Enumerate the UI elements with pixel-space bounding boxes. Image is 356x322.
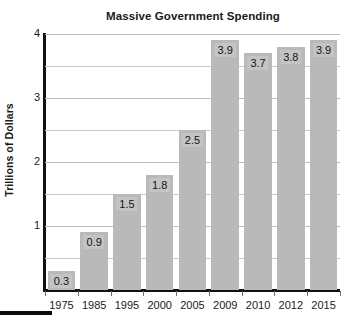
bar[interactable]: 3.9: [310, 40, 338, 290]
bar-value-label: 0.9: [84, 235, 105, 249]
bar-slot: 3.7: [244, 34, 272, 290]
x-axis-tick: [307, 291, 308, 296]
bar-slot: 3.8: [277, 34, 305, 290]
y-axis-tick-label: 1: [20, 219, 40, 231]
x-axis-tick-label: 2005: [176, 299, 209, 311]
x-axis-tick: [78, 291, 79, 296]
x-axis-tick: [340, 291, 341, 296]
bar-value-label: 3.7: [247, 56, 268, 70]
plot-area: 0.30.91.51.82.53.93.73.83.9: [45, 34, 340, 290]
bar[interactable]: 2.5: [179, 130, 207, 290]
bar[interactable]: 1.5: [113, 194, 141, 290]
y-axis-tick-label: 4: [20, 27, 40, 39]
x-axis-tick-label: 2015: [307, 299, 340, 311]
chart-title: Massive Government Spending: [45, 10, 341, 22]
bar[interactable]: 3.7: [244, 53, 272, 290]
x-axis-tick: [176, 291, 177, 296]
bar[interactable]: 3.8: [277, 47, 305, 290]
bar-value-label: 2.5: [182, 133, 203, 147]
x-axis-tick: [111, 291, 112, 296]
x-axis-tick-label: 2010: [242, 299, 275, 311]
y-axis-title: Trillions of Dollars: [0, 0, 18, 300]
bar-value-label: 1.8: [149, 178, 170, 192]
y-axis-tick-label: 3: [20, 91, 40, 103]
x-axis-tick: [45, 291, 46, 296]
bar-slot: 2.5: [179, 34, 207, 290]
x-axis-tick-label: 1985: [78, 299, 111, 311]
bar-value-label: 0.3: [51, 274, 72, 288]
bar[interactable]: 3.9: [211, 40, 239, 290]
bar-slot: 1.5: [113, 34, 141, 290]
bar[interactable]: 0.9: [80, 232, 108, 290]
bar-slot: 3.9: [310, 34, 338, 290]
bar-chart: Massive Government Spending Trillions of…: [0, 0, 356, 322]
bar-slot: 0.9: [80, 34, 108, 290]
bar-value-label: 1.5: [116, 197, 137, 211]
x-axis-tick-label: 2000: [143, 299, 176, 311]
x-axis-tick: [274, 291, 275, 296]
x-axis-tick: [242, 291, 243, 296]
bar-slot: 0.3: [48, 34, 76, 290]
bar-value-label: 3.9: [313, 43, 334, 57]
bar-slot: 3.9: [211, 34, 239, 290]
y-axis-title-label: Trillions of Dollars: [3, 103, 15, 197]
x-axis-tick: [143, 291, 144, 296]
y-axis-tick-label: 2: [20, 155, 40, 167]
bar-value-label: 3.9: [215, 43, 236, 57]
x-axis-tick-label: 2012: [274, 299, 307, 311]
bottom-left-marker: [0, 311, 52, 315]
bar[interactable]: 0.3: [48, 271, 76, 290]
bar-slot: 1.8: [146, 34, 174, 290]
bar[interactable]: 1.8: [146, 175, 174, 290]
x-axis-tick-label: 1995: [111, 299, 144, 311]
x-axis-tick: [209, 291, 210, 296]
bar-value-label: 3.8: [280, 50, 301, 64]
x-axis-tick-label: 1975: [45, 299, 78, 311]
x-axis-tick-label: 2009: [209, 299, 242, 311]
